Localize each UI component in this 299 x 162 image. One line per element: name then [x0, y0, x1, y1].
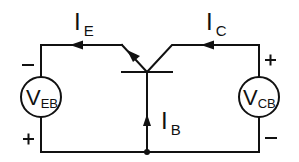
vcb-source-label: VCB [243, 85, 276, 111]
emitter-lead-arrow-icon [127, 50, 140, 62]
base-current-label: IB [161, 107, 181, 138]
emitter-current-label: IE [74, 8, 94, 39]
wire-left [41, 45, 122, 77]
collector-current-arrow-icon [201, 41, 214, 50]
vcb-plus-sign [266, 56, 275, 65]
collector-current-label: IC [206, 8, 227, 39]
veb-source-label: VEB [26, 85, 58, 111]
base-current-arrow-icon [143, 114, 151, 126]
circuit-diagram: IE IC IB VEB VCB [0, 0, 299, 162]
wire-left-lower [41, 117, 259, 152]
junction-dot [144, 149, 150, 155]
veb-plus-sign [24, 135, 33, 144]
emitter-current-arrow-icon [70, 41, 83, 50]
